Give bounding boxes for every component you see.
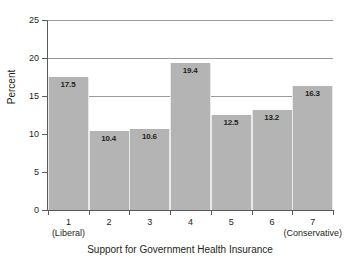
gridline-20 (48, 58, 333, 59)
x-tick-mark (48, 210, 49, 215)
gridline-25 (48, 20, 333, 21)
y-tick-mark (42, 20, 47, 21)
y-tick-label: 10 (17, 130, 39, 139)
bar-chart: 17.5 10.4 10.6 19.4 12.5 13.2 16.3 0 5 1… (0, 0, 360, 272)
y-tick-mark (42, 58, 47, 59)
y-tick-label: 20 (17, 54, 39, 63)
x-tick-label-7: 7 (Conservative) (283, 217, 343, 239)
y-tick-label: 0 (17, 206, 39, 215)
bar-category-6[interactable] (252, 110, 293, 210)
x-tick-mark (129, 210, 130, 215)
bar-category-4[interactable] (170, 63, 211, 210)
bar-value-label: 10.6 (129, 133, 169, 141)
x-axis-title: Support for Government Health Insurance (0, 244, 360, 256)
x-tick-mark (89, 210, 90, 215)
y-tick-mark (42, 172, 47, 173)
y-tick-mark (42, 210, 47, 211)
x-tick-mark (333, 210, 334, 215)
x-tick-mark (252, 210, 253, 215)
x-tick-label-value: 4 (188, 217, 193, 227)
x-tick-label-value: 6 (269, 217, 274, 227)
x-axis-line (47, 210, 334, 211)
x-tick-mark (211, 210, 212, 215)
x-tick-label-value: 1 (66, 217, 71, 227)
x-tick-label-value: 5 (229, 217, 234, 227)
x-tick-label-value: 7 (310, 217, 315, 227)
x-tick-mark (292, 210, 293, 215)
y-axis-title: Percent (7, 37, 17, 137)
plot-area: 17.5 10.4 10.6 19.4 12.5 13.2 16.3 (48, 20, 333, 210)
y-tick-mark (42, 96, 47, 97)
y-tick-label: 15 (17, 92, 39, 101)
x-tick-label-value: 3 (147, 217, 152, 227)
x-tick-sublabel-liberal: (Liberal) (38, 228, 98, 239)
bar-value-label: 13.2 (252, 114, 292, 122)
bar-category-5[interactable] (211, 115, 252, 210)
bar-category-1[interactable] (48, 77, 89, 210)
x-tick-mark (170, 210, 171, 215)
x-tick-sublabel-conservative: (Conservative) (283, 228, 343, 239)
y-tick-label: 25 (17, 16, 39, 25)
bar-category-3[interactable] (129, 129, 170, 210)
bar-value-label: 19.4 (170, 67, 210, 75)
bar-category-7[interactable] (292, 86, 333, 210)
y-axis-line (47, 20, 48, 211)
x-tick-label-value: 2 (107, 217, 112, 227)
bar-value-label: 10.4 (89, 135, 129, 143)
bar-value-label: 17.5 (48, 81, 88, 89)
bar-value-label: 12.5 (211, 119, 251, 127)
bar-value-label: 16.3 (292, 90, 332, 98)
y-tick-label: 5 (17, 168, 39, 177)
y-tick-mark (42, 134, 47, 135)
